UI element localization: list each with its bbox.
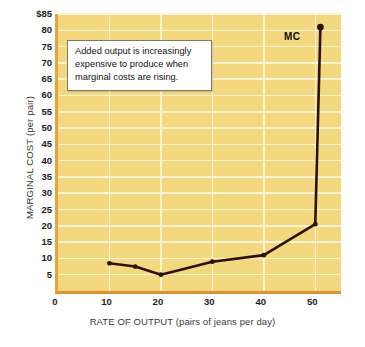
y-axis-tick-label: 80 <box>18 26 52 36</box>
y-axis-tick-label: 75 <box>18 42 52 52</box>
data-point <box>133 264 138 269</box>
y-axis-tick-label: 40 <box>18 156 52 166</box>
data-point <box>317 24 324 31</box>
annotation-line: expensive to produce when <box>75 58 205 71</box>
x-axis-title: RATE OF OUTPUT (pairs of jeans per day) <box>0 316 365 327</box>
y-axis-tick-label: 45 <box>18 140 52 150</box>
y-axis-tick-label: 20 <box>18 221 52 231</box>
annotation-callout: Added output is increasinglyexpensive to… <box>67 40 212 91</box>
plot-area: Added output is increasinglyexpensive to… <box>55 14 341 294</box>
y-axis-tick-label: 5 <box>18 270 52 280</box>
data-point <box>159 272 164 277</box>
marginal-cost-chart: MARGINAL COST (per pair) $85807570656055… <box>0 0 365 347</box>
y-axis-tick-label: 10 <box>18 254 52 264</box>
x-axis-tick-label: 30 <box>189 297 229 307</box>
x-axis-tick-label: 50 <box>292 297 332 307</box>
data-point <box>107 261 112 266</box>
series-label-mc: MC <box>284 31 300 42</box>
y-axis-tick-labels: $858075706560555045403530252015105 <box>18 14 52 291</box>
y-axis-tick-label: 30 <box>18 188 52 198</box>
y-axis-tick-label: 60 <box>18 91 52 101</box>
y-axis-tick-label: 65 <box>18 74 52 84</box>
data-point <box>261 253 266 258</box>
annotation-line: marginal costs are rising. <box>75 71 205 84</box>
y-axis-tick-label: $85 <box>18 9 52 19</box>
y-axis-tick-label: 50 <box>18 123 52 133</box>
y-axis-tick-label: 25 <box>18 205 52 215</box>
y-axis-tick-label: 15 <box>18 237 52 247</box>
x-axis-tick-label: 0 <box>35 297 75 307</box>
y-axis-tick-label: 70 <box>18 58 52 68</box>
data-point <box>313 222 318 227</box>
x-axis-tick-labels: 01020304050 <box>55 297 338 311</box>
y-axis-tick-label: 55 <box>18 107 52 117</box>
y-axis-tick-label: 35 <box>18 172 52 182</box>
annotation-line: Added output is increasingly <box>75 45 205 58</box>
x-axis-tick-label: 20 <box>138 297 178 307</box>
data-point <box>210 259 215 264</box>
x-axis-tick-label: 40 <box>241 297 281 307</box>
x-axis-tick-label: 10 <box>86 297 126 307</box>
